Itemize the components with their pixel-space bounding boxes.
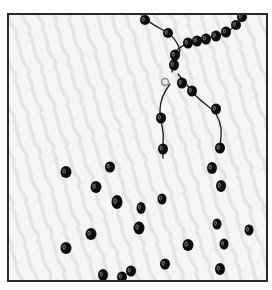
strung-bead	[156, 113, 166, 124]
wavy-texture-background	[8, 14, 267, 281]
loose-bead	[215, 263, 225, 275]
strung-bead	[169, 60, 179, 71]
strung-bead	[221, 27, 231, 38]
loose-bead	[183, 239, 194, 251]
loose-bead	[61, 242, 72, 254]
strung-bead	[170, 50, 180, 61]
loose-bead	[245, 225, 254, 236]
strung-bead	[192, 36, 202, 47]
strung-bead	[231, 20, 241, 30]
strung-bead	[211, 31, 221, 42]
loose-bead	[213, 219, 222, 230]
broken-necklace-illustration	[0, 0, 272, 290]
loose-bead	[220, 239, 229, 250]
loose-bead	[112, 195, 123, 209]
strung-bead	[140, 15, 150, 25]
loose-bead	[105, 162, 115, 173]
loose-bead	[61, 166, 72, 178]
loose-bead	[207, 162, 217, 174]
strung-bead	[183, 38, 193, 49]
loose-bead	[137, 202, 146, 214]
loose-bead	[86, 228, 97, 240]
loose-bead	[216, 180, 226, 192]
strung-bead	[163, 28, 173, 38]
strung-bead	[177, 78, 187, 89]
loose-bead	[134, 222, 145, 235]
strung-bead	[211, 104, 221, 115]
loose-bead	[98, 269, 108, 281]
strung-bead	[187, 86, 197, 97]
loose-bead	[91, 181, 102, 193]
loose-bead	[160, 259, 170, 270]
strung-bead	[158, 144, 168, 155]
loose-bead	[126, 266, 136, 277]
strung-bead	[201, 34, 211, 45]
strung-bead	[215, 143, 225, 154]
loose-bead	[158, 194, 167, 205]
